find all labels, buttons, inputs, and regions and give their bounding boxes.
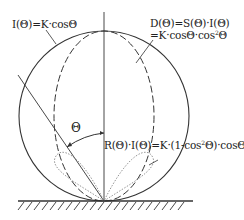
reflect-text-a: R(Θ)·I(Θ)=K·(1-cos [104, 139, 201, 151]
label-reflect: R(Θ)·I(Θ)=K·(1-cos2Θ)·cosΘ [104, 140, 244, 151]
leader-reflect [149, 160, 158, 165]
label-diffuse-line2: =K·cosΘ·cos2Θ [150, 30, 227, 41]
diffuse-text-b: Θ [219, 29, 227, 41]
label-diffuse-line1: D(Θ)=S(Θ)·I(Θ) [150, 18, 230, 29]
reflect-lobe-right [104, 152, 154, 201]
angle-arc [67, 133, 104, 147]
label-angle: Θ [71, 123, 81, 134]
leader-lambert [46, 30, 56, 44]
label-lambert: I(Θ)=K·cosΘ [12, 19, 77, 30]
leader-diffuse [136, 40, 153, 63]
diffuse-text-a: =K·cosΘ·cos [150, 29, 215, 41]
ground-hatching [18, 202, 184, 210]
angle-ray [18, 75, 104, 201]
reflect-text-b: Θ)·cosΘ [205, 139, 244, 151]
reflect-lobe-left [54, 152, 104, 201]
